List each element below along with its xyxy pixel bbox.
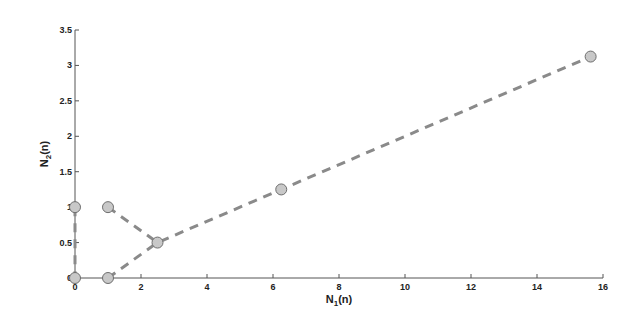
y-tick-label: 1.5: [59, 167, 72, 177]
x-tick-label: 2: [138, 282, 143, 292]
data-point-marker: [70, 273, 81, 284]
x-tick-label: 14: [532, 282, 542, 292]
series-line-trajectory-b: [108, 57, 591, 278]
x-ticks: 0246810121416: [72, 274, 608, 292]
x-tick-label: 4: [204, 282, 209, 292]
y-tick-label: 0.5: [59, 238, 72, 248]
x-tick-label: 6: [270, 282, 275, 292]
series-line-trajectory-c: [108, 207, 158, 242]
data-point-marker: [103, 202, 114, 213]
data-point-marker: [152, 237, 163, 248]
x-tick-label: 10: [400, 282, 410, 292]
scatter-chart: 0246810121416 00.511.522.533.5 N1(n) N2(…: [0, 0, 637, 327]
y-tick-label: 2: [67, 131, 72, 141]
y-tick-label: 3.5: [59, 25, 72, 35]
x-tick-label: 16: [598, 282, 608, 292]
y-tick-label: 2.5: [59, 96, 72, 106]
y-tick-label: 3: [67, 60, 72, 70]
x-tick-label: 8: [336, 282, 341, 292]
data-point-marker: [585, 51, 596, 62]
data-point-marker: [103, 273, 114, 284]
data-point-marker: [70, 202, 81, 213]
data-point-marker: [276, 184, 287, 195]
axes: 0246810121416 00.511.522.533.5: [59, 25, 608, 292]
y-axis-label: N2(n): [38, 140, 53, 167]
x-tick-label: 12: [466, 282, 476, 292]
x-axis-label: N1(n): [326, 293, 353, 308]
